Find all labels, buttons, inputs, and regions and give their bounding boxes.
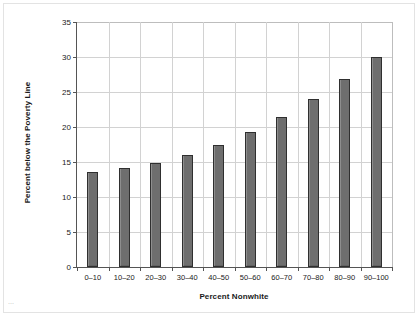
bar [308,99,319,267]
y-axis-tick-label: 15 [62,158,71,167]
x-axis-tick-label: 40–50 [208,273,229,282]
x-axis-tick [266,267,267,271]
x-axis-tick-label: 0–10 [84,273,101,282]
bar [182,155,193,267]
gridline-vertical [266,22,267,267]
x-axis-tick [298,267,299,271]
bar [87,172,98,267]
gridline-vertical [329,22,330,267]
y-axis-tick [73,22,77,23]
x-axis-tick-label: 50–60 [240,273,261,282]
bar [339,79,350,267]
gridline-vertical [298,22,299,267]
x-axis-tick [235,267,236,271]
x-axis-tick [203,267,204,271]
y-axis-tick-label: 10 [62,193,71,202]
bar [119,168,130,267]
y-axis-tick-label: 30 [62,53,71,62]
plot-area: 051015202530350–1010–2020–3030–4040–5050… [76,22,392,268]
x-axis-tick-label: 90–100 [364,273,389,282]
gridline-vertical [140,22,141,267]
bar [213,145,224,268]
x-axis-title: Percent Nonwhite [76,292,392,301]
gridline-vertical [235,22,236,267]
gridline-vertical [109,22,110,267]
chart-figure: Percent below the Poverty Line 051015202… [0,0,419,318]
scan-artifact: ⋯ [8,299,14,306]
y-axis-tick-label: 0 [67,263,71,272]
bar [371,57,382,267]
bar [150,163,161,267]
x-axis-tick-label: 70–80 [303,273,324,282]
gridline-vertical [392,22,393,267]
x-axis-tick-label: 30–40 [177,273,198,282]
y-axis-tick [73,127,77,128]
x-axis-tick [329,267,330,271]
x-axis-tick-label: 60–70 [271,273,292,282]
y-axis-tick [73,197,77,198]
x-axis-tick [172,267,173,271]
y-axis-tick [73,232,77,233]
y-axis-tick-label: 25 [62,88,71,97]
y-axis-tick [73,92,77,93]
gridline-vertical [361,22,362,267]
y-axis-tick-label: 35 [62,18,71,27]
x-axis-tick-label: 10–20 [114,273,135,282]
x-axis-tick [140,267,141,271]
y-axis-tick [73,57,77,58]
x-axis-tick-label: 20–30 [145,273,166,282]
x-axis-tick [77,267,78,271]
y-axis-tick [73,162,77,163]
y-axis-title: Percent below the Poverty Line [23,38,32,248]
gridline-vertical [172,22,173,267]
gridline-vertical [203,22,204,267]
x-axis-tick [392,267,393,271]
bar [276,117,287,267]
bar [245,132,256,267]
x-axis-tick [361,267,362,271]
x-axis-tick [109,267,110,271]
x-axis-tick-label: 80–90 [334,273,355,282]
y-axis-tick-label: 20 [62,123,71,132]
y-axis-tick-label: 5 [67,228,71,237]
